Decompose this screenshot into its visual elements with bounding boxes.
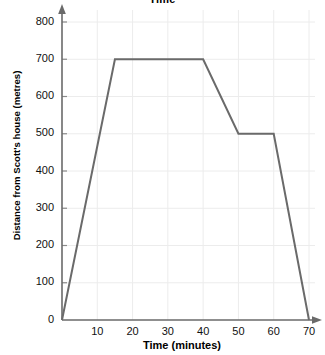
- y-tick-label: 0: [20, 313, 54, 325]
- y-tick-label: 300: [20, 201, 54, 213]
- y-tick-label: 500: [20, 126, 54, 138]
- y-tick-label: 400: [20, 164, 54, 176]
- data-line-scotts-journey: [62, 59, 309, 320]
- y-tick-label: 200: [20, 238, 54, 250]
- grid-lines: [62, 10, 315, 320]
- x-tick-label: 20: [119, 325, 147, 337]
- x-tick-label: 30: [154, 325, 182, 337]
- y-tick-label: 100: [20, 275, 54, 287]
- x-tick-label: 70: [295, 325, 323, 337]
- x-tick-label: 50: [224, 325, 252, 337]
- y-axis-arrow-icon: [58, 4, 66, 14]
- y-tick-label: 600: [20, 89, 54, 101]
- x-tick-label: 60: [260, 325, 288, 337]
- y-tick-label: 800: [20, 15, 54, 27]
- x-axis-arrow-icon: [312, 316, 322, 324]
- x-tick-label: 40: [189, 325, 217, 337]
- x-tick-label: 10: [83, 325, 111, 337]
- line-chart: Time Distance from Scott's house (metres…: [0, 0, 325, 355]
- y-tick-label: 700: [20, 52, 54, 64]
